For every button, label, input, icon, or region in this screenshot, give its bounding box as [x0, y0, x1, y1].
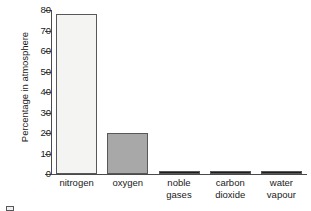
y-tick-label: 60: [9, 46, 51, 55]
x-category-label: watervapour: [256, 177, 307, 200]
y-tick-label: 40: [9, 87, 51, 96]
category-label-line: nitrogen: [51, 177, 102, 189]
bars-group: [51, 10, 307, 174]
y-tick-label: 0: [9, 169, 51, 178]
x-category-label: noblegases: [153, 177, 204, 200]
y-tick-label: 50: [9, 67, 51, 76]
y-tick-label: 20: [9, 128, 51, 137]
x-category-label: nitrogen: [51, 177, 102, 189]
category-label-line: water: [256, 177, 307, 189]
bar-noble-gases: [159, 171, 200, 174]
legend-fragment: [6, 206, 18, 211]
category-label-line: vapour: [256, 189, 307, 201]
x-category-label: oxygen: [102, 177, 153, 189]
y-axis-ticks: 01020304050607080: [0, 0, 51, 211]
y-tick-label: 30: [9, 108, 51, 117]
bar-water-vapour: [261, 171, 302, 174]
bar-carbon-dioxide: [210, 171, 251, 174]
category-label-line: noble: [153, 177, 204, 189]
legend-swatch-icon: [6, 206, 14, 211]
x-axis-category-labels: nitrogenoxygennoblegasescarbondioxidewat…: [51, 177, 307, 211]
x-axis-line: [51, 174, 307, 175]
category-label-line: dioxide: [205, 189, 256, 201]
y-tick-label: 10: [9, 149, 51, 158]
x-category-label: carbondioxide: [205, 177, 256, 200]
bar-nitrogen: [56, 14, 97, 174]
bar-oxygen: [107, 133, 148, 174]
y-tick-label: 70: [9, 26, 51, 35]
category-label-line: oxygen: [102, 177, 153, 189]
y-tick-label: 80: [9, 5, 51, 14]
category-label-line: carbon: [205, 177, 256, 189]
category-label-line: gases: [153, 189, 204, 201]
bar-chart-figure: Percentage in atmosphere 010203040506070…: [0, 0, 311, 211]
